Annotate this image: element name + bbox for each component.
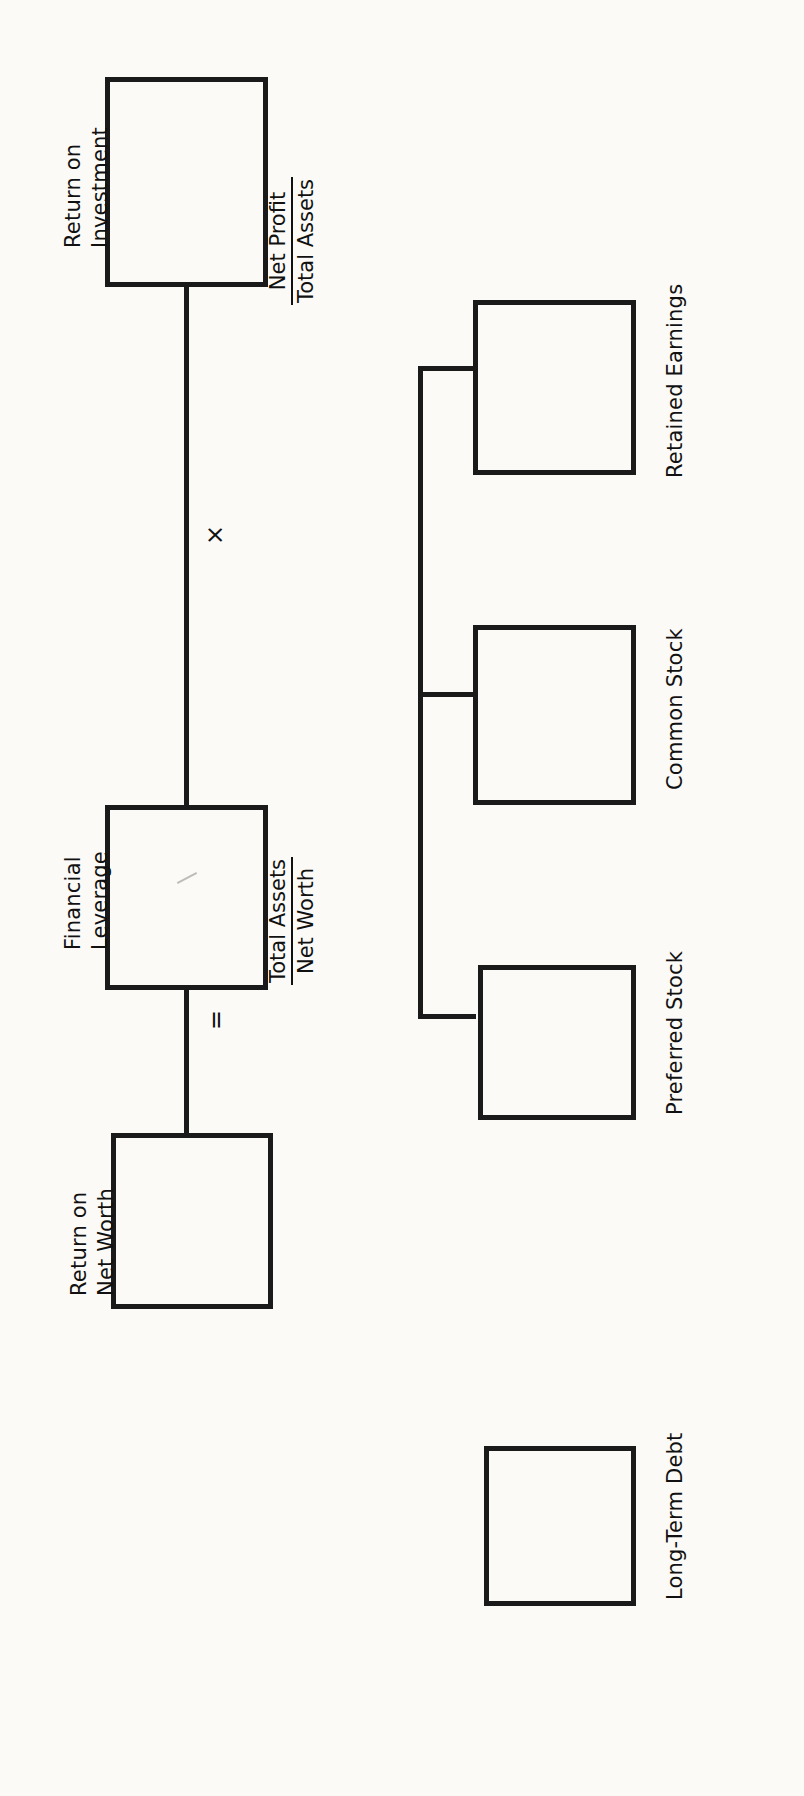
node-financial-leverage[interactable] (105, 805, 268, 990)
formula-numerator: Net Profit (266, 177, 293, 305)
label-line-1: Return on (61, 144, 85, 248)
connector-financial-leverage-to-return-on-net-worth (184, 988, 189, 1136)
node-preferred-stock[interactable] (478, 965, 636, 1120)
node-label-return-on-investment: Return on Investment (60, 127, 115, 248)
label-line-2: Investment (88, 127, 112, 248)
node-long-term-debt[interactable] (484, 1446, 636, 1606)
bracket-arm-retained-earnings (418, 366, 476, 371)
label-line-1: Return on (67, 1192, 91, 1296)
node-return-on-net-worth[interactable] (111, 1133, 273, 1309)
node-label-common-stock: Common Stock (662, 628, 690, 790)
label-line-1: Financial (61, 856, 85, 950)
label-line-2: Net Worth (94, 1188, 118, 1296)
node-label-return-on-net-worth: Return on Net Worth (66, 1188, 121, 1296)
formula-financial-leverage: Total Assets Net Worth (266, 857, 318, 985)
connector-roi-to-financial-leverage (184, 285, 189, 809)
label-line-2: Leverage (88, 851, 112, 950)
node-label-long-term-debt: Long-Term Debt (662, 1433, 690, 1601)
node-return-on-investment[interactable] (105, 77, 268, 287)
formula-denominator: Net Worth (293, 857, 318, 985)
formula-denominator: Total Assets (293, 177, 318, 305)
formula-return-on-investment: Net Profit Total Assets (266, 177, 318, 305)
operator-equals: = (202, 1010, 230, 1030)
formula-numerator: Total Assets (266, 857, 293, 985)
node-label-financial-leverage: Financial Leverage (60, 851, 115, 950)
node-common-stock[interactable] (473, 625, 636, 805)
node-label-preferred-stock: Preferred Stock (662, 951, 690, 1115)
operator-multiply: × (201, 525, 229, 545)
diagram-canvas: Return on Investment Net Profit Total As… (0, 0, 804, 1796)
bracket-arm-preferred-stock (418, 1014, 476, 1019)
bracket-arm-common-stock (418, 692, 476, 697)
node-retained-earnings[interactable] (473, 300, 636, 475)
node-label-retained-earnings: Retained Earnings (662, 284, 690, 478)
